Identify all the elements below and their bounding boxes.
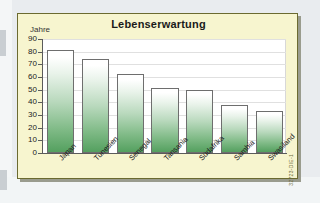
y-tick-label: 20 <box>21 124 37 132</box>
y-tick-mark <box>38 64 42 65</box>
y-tick-mark <box>38 52 42 53</box>
y-tick-mark <box>38 90 42 91</box>
y-tick-mark <box>38 115 42 116</box>
bar-series <box>43 39 286 153</box>
source-code-label: 32723-DIE-1 <box>288 154 294 186</box>
y-tick-label: 60 <box>21 73 37 81</box>
chart-figure: Lebenserwartung Jahre 010203040506070809… <box>17 13 298 179</box>
y-tick-mark <box>38 102 42 103</box>
y-tick-label: 10 <box>21 136 37 144</box>
bar <box>117 74 144 153</box>
y-tick-label: 90 <box>21 35 37 43</box>
y-tick-label: 30 <box>21 111 37 119</box>
y-axis-tick-labels: 0102030405060708090 <box>18 14 37 180</box>
y-tick-label: 50 <box>21 86 37 94</box>
y-tick-label: 40 <box>21 98 37 106</box>
bar <box>47 50 74 153</box>
bar <box>82 59 109 153</box>
page-edge-mark-bottom <box>0 170 7 190</box>
page-edge-mark-top <box>0 30 6 56</box>
y-tick-label: 70 <box>21 60 37 68</box>
chart-title: Lebenserwartung <box>18 18 299 30</box>
y-tick-mark <box>38 39 42 40</box>
y-tick-label: 80 <box>21 48 37 56</box>
y-tick-mark <box>38 128 42 129</box>
y-tick-mark <box>38 77 42 78</box>
y-tick-mark <box>38 140 42 141</box>
y-tick-label: 0 <box>21 149 37 157</box>
y-tick-mark <box>38 153 42 154</box>
